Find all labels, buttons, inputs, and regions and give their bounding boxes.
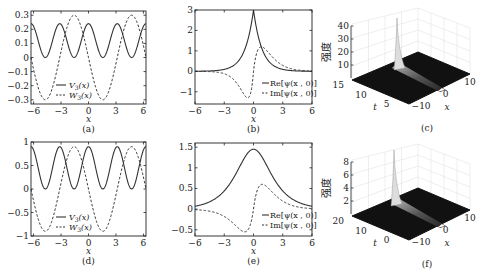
y-tick-label: 0.5 (15, 161, 30, 171)
surface-floor (352, 52, 470, 104)
z-tick-label: 20 (338, 47, 350, 57)
legend: Re[ψ(x , 0)]Im[ψ(x , 0)] (259, 77, 317, 98)
x-axis-label: x (251, 114, 256, 124)
panel-c-surface: 10203040强度15105t−10010x(c) (320, 8, 476, 133)
x-tick-label: 10 (464, 213, 476, 223)
panel-caption: (f) (422, 259, 432, 269)
t-tick-label: 20 (333, 216, 345, 226)
y-tick-label: 1.5 (179, 142, 194, 152)
x-tick-label: 6 (141, 106, 147, 116)
y-tick-label: 2 (187, 25, 193, 35)
x-tick-label: −6 (188, 238, 202, 248)
x-tick-label: 0 (443, 89, 449, 99)
panel-caption: (a) (82, 124, 94, 134)
x-axis-label: x (251, 246, 256, 256)
panel-a-plot: −6−3036−0.3−0.2−0.100.10.20.3x(a)V3(x)W3… (7, 10, 146, 134)
panel-d-plot: −6−3036−1−0.500.51x(d)V3(x)W3(x) (7, 137, 146, 266)
x-tick-label: −3 (54, 106, 68, 116)
legend-entry: W3(x) (69, 91, 92, 101)
legend-entry: V3(x) (69, 213, 89, 223)
z-tick-label: 10 (338, 60, 350, 70)
y-tick-label: 1 (187, 163, 193, 173)
y-tick-label: 1 (187, 46, 193, 56)
z-tick-label: 8 (343, 157, 349, 167)
z-axis-label: 强度 (320, 42, 332, 62)
legend: Re[ψ(x , 0)]Im[ψ(x , 0)] (259, 209, 317, 230)
t-axis-label: t (373, 102, 377, 112)
y-tick-label: 3 (187, 5, 193, 15)
y-tick-label: 0 (23, 53, 29, 63)
y-tick-label: −0.1 (7, 67, 29, 77)
t-tick-label: 0 (384, 235, 390, 245)
z-tick-label: 40 (338, 21, 350, 31)
panel-f-surface: 2468强度20100t−10010x(f) (320, 144, 476, 269)
series-solid-line (31, 147, 146, 189)
panel-caption: (b) (247, 124, 260, 134)
legend-entry: W3(x) (69, 223, 92, 233)
legend-entry-im: Im[ψ(x , 0)] (270, 221, 317, 230)
x-tick-label: −6 (188, 106, 202, 116)
t-axis-label: t (373, 238, 377, 248)
surface-floor (352, 188, 470, 240)
y-tick-label: −0.3 (7, 95, 29, 105)
t-tick-label: 10 (355, 226, 367, 236)
y-tick-label: 0 (23, 184, 29, 194)
x-axis-label: x (86, 114, 91, 124)
t-tick-label: 10 (355, 90, 367, 100)
z-tick-label: 30 (338, 34, 350, 44)
x-tick-label: −6 (27, 106, 41, 116)
panel-e-plot: −6−3036−0.500.511.5x(e)Re[ψ(x , 0)]Im[ψ(… (171, 142, 317, 266)
y-tick-label: −1 (180, 87, 193, 97)
y-tick-label: 0.2 (15, 24, 29, 34)
z-tick-label: 6 (343, 170, 349, 180)
panel-b-plot: −6−3036−10123x(b)Re[ψ(x , 0)]Im[ψ(x , 0)… (180, 5, 317, 134)
x-tick-label: −3 (54, 238, 68, 248)
x-tick-label: 6 (309, 106, 315, 116)
x-tick-label: 3 (113, 106, 119, 116)
y-tick-label: −0.5 (7, 208, 29, 218)
legend: V3(x)W3(x) (56, 81, 92, 101)
legend-entry-im: Im[ψ(x , 0)] (270, 89, 317, 98)
x-tick-label: 10 (464, 77, 476, 87)
y-tick-label: −0.2 (7, 81, 29, 91)
z-axis-label: 强度 (320, 178, 332, 198)
y-tick-label: 0.1 (15, 38, 29, 48)
y-tick-label: −0.5 (171, 225, 193, 235)
legend-entry-re: Re[ψ(x , 0)] (270, 79, 317, 88)
x-tick-label: 6 (309, 238, 315, 248)
x-tick-label: −10 (412, 101, 431, 111)
x-axis-label: x (444, 102, 449, 112)
t-tick-label: 15 (333, 80, 345, 90)
panel-caption: (e) (247, 256, 259, 266)
y-tick-label: 0 (187, 66, 193, 76)
series-solid-line (195, 10, 312, 71)
panel-caption: (d) (82, 256, 95, 266)
y-tick-label: −1 (16, 231, 29, 241)
x-tick-label: −3 (218, 106, 232, 116)
legend: V3(x)W3(x) (56, 213, 92, 233)
panel-caption: (c) (421, 123, 433, 133)
x-tick-label: −3 (218, 238, 232, 248)
z-tick-label: 2 (343, 196, 349, 206)
legend-entry: V3(x) (69, 81, 89, 91)
legend-entry-re: Re[ψ(x , 0)] (270, 211, 317, 220)
x-tick-label: 0 (443, 225, 449, 235)
y-tick-label: 0 (187, 204, 193, 214)
series-solid-line (195, 149, 312, 206)
y-tick-label: 0.5 (179, 183, 194, 193)
z-tick-label: 4 (343, 183, 349, 193)
x-tick-label: 6 (141, 238, 147, 248)
x-tick-label: 3 (280, 238, 286, 248)
series-solid-line (31, 24, 146, 58)
y-tick-label: 1 (23, 137, 29, 147)
x-axis-label: x (444, 238, 449, 248)
x-axis-label: x (86, 246, 91, 256)
x-tick-label: −10 (412, 237, 431, 247)
t-tick-label: 5 (384, 99, 390, 109)
figure: −6−3036−0.3−0.2−0.100.10.20.3x(a)V3(x)W3… (0, 0, 481, 276)
x-tick-label: 3 (113, 238, 119, 248)
y-tick-label: 0.3 (15, 10, 30, 20)
x-tick-label: 3 (280, 106, 286, 116)
